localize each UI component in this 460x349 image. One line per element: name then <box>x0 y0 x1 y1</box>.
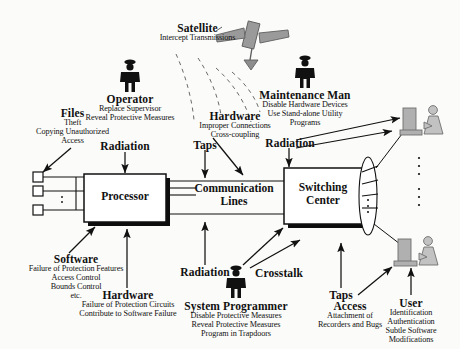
remote-terminal-links <box>374 130 405 244</box>
threat-label-satellite: Satellite Intercept Transmissions <box>120 22 275 43</box>
processor-label: Processor <box>84 190 166 203</box>
remote-terminal-top-right <box>400 106 443 135</box>
terminal-icon-2 <box>33 186 43 196</box>
radiation-comm-heading: Radiation <box>170 266 240 278</box>
threat-label-system-programmer: System Programmer Disable Protective Mea… <box>175 300 297 339</box>
threat-label-crosstalk: Crosstalk <box>235 267 323 279</box>
security-threat-diagram: Processor Communication Lines Switching … <box>0 0 460 349</box>
user-detail-4: Modifications <box>371 336 451 345</box>
arrow-files <box>43 148 71 172</box>
arrow-crosstalk-right <box>250 240 300 268</box>
arrow-software <box>69 227 95 253</box>
arrow-crosstalk-left <box>243 228 283 265</box>
maintenance-man-figure-icon <box>295 56 315 88</box>
terminal-icon-3 <box>33 205 43 215</box>
terminal-ellipsis-left <box>61 196 63 203</box>
communication-lines-label: Communication Lines <box>175 182 293 208</box>
remote-terminal-bottom-right <box>394 237 438 266</box>
communication-lines-label-line2: Lines <box>221 195 248 207</box>
terminal-group-left <box>33 172 84 215</box>
system-programmer-detail-3: Program in Trapdoors <box>175 330 297 339</box>
terminal-icon-1 <box>33 172 43 182</box>
threat-label-hardware-top: Hardware Improper Connections Cross-coup… <box>176 110 294 140</box>
processor-label-text: Processor <box>101 190 149 202</box>
crosstalk-heading: Crosstalk <box>235 267 323 279</box>
threat-label-user: User Identification Authentication Subtl… <box>371 297 451 345</box>
operator-figure-icon <box>120 60 140 92</box>
communication-lines-label-line1: Communication <box>194 182 273 194</box>
threat-label-taps-top: Taps <box>177 139 233 151</box>
fanout-ellipsis-outer <box>418 157 420 206</box>
radiation-switching-heading: Radiation <box>255 137 325 149</box>
taps-top-heading: Taps <box>177 139 233 151</box>
satellite-detail-1: Intercept Transmissions <box>120 34 275 43</box>
threat-label-radiation-processor: Radiation <box>90 140 160 152</box>
switching-center-label-line1: Switching <box>299 181 348 193</box>
switching-center-label-line2: Center <box>306 194 340 206</box>
radiation-processor-heading: Radiation <box>90 140 160 152</box>
switching-center-label: Switching Center <box>284 181 362 207</box>
threat-label-radiation-comm: Radiation <box>170 266 240 278</box>
threat-label-radiation-switching: Radiation <box>255 137 325 149</box>
